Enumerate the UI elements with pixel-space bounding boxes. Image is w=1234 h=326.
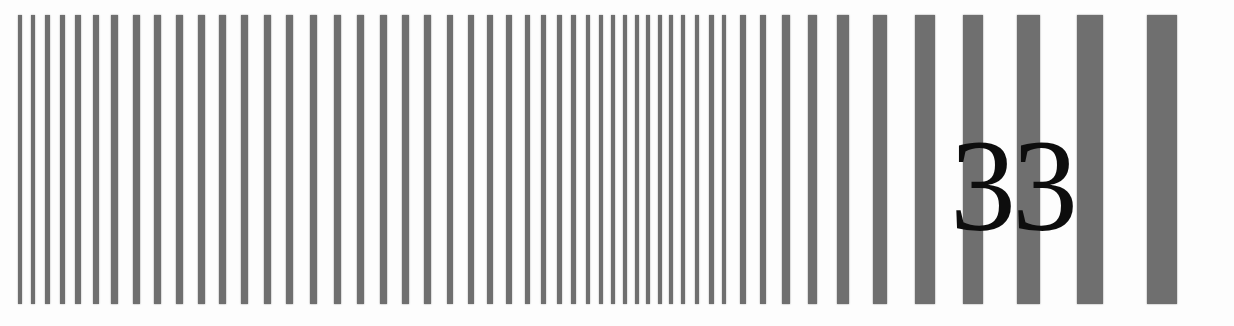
vertical-bar xyxy=(646,15,650,304)
vertical-bar xyxy=(740,15,746,304)
vertical-bar xyxy=(176,15,183,304)
vertical-bar xyxy=(669,15,673,304)
vertical-bar xyxy=(525,15,530,304)
vertical-bar xyxy=(599,15,603,304)
pattern-number-label: 33 xyxy=(950,120,1074,252)
vertical-bar xyxy=(837,15,849,304)
vertical-bar xyxy=(310,15,317,304)
vertical-bar xyxy=(695,15,699,304)
vertical-bar xyxy=(219,15,226,304)
vertical-bar xyxy=(60,15,65,304)
vertical-bar xyxy=(447,15,453,304)
vertical-bar xyxy=(75,15,81,304)
vertical-bar xyxy=(611,15,615,304)
vertical-bar xyxy=(93,15,99,304)
vertical-bar xyxy=(1077,15,1103,304)
vertical-bar xyxy=(111,15,118,304)
vertical-bar xyxy=(286,15,293,304)
vertical-bar xyxy=(506,15,512,304)
vertical-bar xyxy=(133,15,140,304)
vertical-bar xyxy=(154,15,161,304)
vertical-bar xyxy=(402,15,409,304)
vertical-bar xyxy=(424,15,431,304)
vertical-bar xyxy=(380,15,387,304)
vertical-bar xyxy=(760,15,766,304)
vertical-bar xyxy=(915,15,935,304)
vertical-bar xyxy=(782,15,790,304)
vertical-bar xyxy=(571,15,576,304)
vertical-bar xyxy=(18,15,22,304)
vertical-bar xyxy=(557,15,562,304)
vertical-bar xyxy=(586,15,590,304)
vertical-bar xyxy=(264,15,271,304)
vertical-bar xyxy=(658,15,662,304)
vertical-bar xyxy=(681,15,685,304)
resolution-test-pattern: 33 xyxy=(0,0,1234,326)
vertical-bar xyxy=(541,15,546,304)
vertical-bar xyxy=(1147,15,1177,304)
vertical-bar xyxy=(635,15,639,304)
vertical-bar xyxy=(334,15,341,304)
vertical-bar xyxy=(468,15,474,304)
vertical-bar xyxy=(709,15,714,304)
vertical-bar xyxy=(487,15,493,304)
vertical-bar xyxy=(873,15,887,304)
vertical-bar xyxy=(623,15,627,304)
vertical-bar xyxy=(357,15,364,304)
vertical-bar xyxy=(808,15,817,304)
vertical-bar xyxy=(198,15,205,304)
vertical-bar xyxy=(45,15,50,304)
vertical-bar xyxy=(722,15,726,304)
vertical-bar xyxy=(241,15,248,304)
vertical-bar xyxy=(31,15,35,304)
